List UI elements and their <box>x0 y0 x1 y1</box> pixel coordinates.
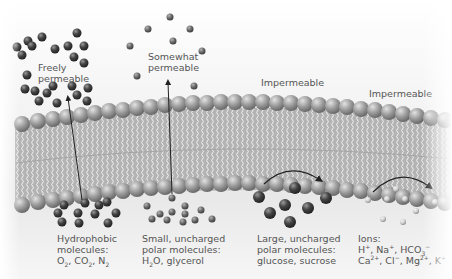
small-polar-molecules-inside <box>144 195 216 226</box>
small-polar-formula: H2O, glycerol <box>142 255 225 266</box>
somewhat-permeable-label: Somewhat permeable <box>148 51 199 73</box>
hydrophobic-formula: O2, CO2, N2 <box>57 255 117 266</box>
hydrophobic-molecules-label: Hydrophobic molecules: O2, CO2, N2 <box>57 233 117 266</box>
impermeable-label-ions: Impermeable <box>369 88 432 99</box>
small-polar-molecules-label: Small, uncharged polar molecules: H2O, g… <box>142 233 225 266</box>
impermeable-label-large-polar: Impermeable <box>261 77 324 88</box>
ions-line-2: Ca2+, Cl−, Mg2+, K+ <box>358 255 446 266</box>
ions-label: Ions: H+, Na+, HCO3− Ca2+, Cl−, Mg2+, K+ <box>358 233 446 266</box>
hydrophobic-molecules-inside <box>54 198 121 228</box>
membrane-permeability-diagram: Freely permeable Somewhat permeable Impe… <box>0 0 452 279</box>
freely-permeable-label: Freely permeable <box>38 62 89 84</box>
large-polar-molecules-label: Large, uncharged polar molecules: glucos… <box>257 233 341 266</box>
